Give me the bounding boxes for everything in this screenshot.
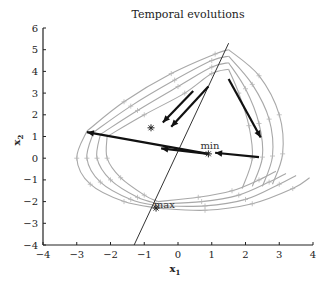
time-tick-cross (267, 180, 272, 185)
x-tick-label: −2 (103, 249, 118, 260)
time-tick-cross (290, 186, 295, 191)
trajectory-curve (158, 176, 296, 207)
y-tick-label: 4 (32, 66, 38, 77)
time-tick-cross (128, 197, 133, 202)
y-tick-label: 6 (32, 23, 38, 34)
time-tick-cross (95, 156, 100, 161)
trajectory-curve (107, 69, 229, 136)
time-tick-cross (243, 197, 248, 202)
time-tick-cross (172, 78, 177, 83)
trajectory-curve (158, 178, 310, 211)
x-axis-label: x1 (170, 263, 181, 277)
chart-title: Temporal evolutions (131, 8, 245, 21)
y-tick-label: −1 (23, 174, 38, 185)
time-tick-cross (135, 195, 140, 200)
time-tick-cross (203, 203, 208, 208)
y-axis-label: x2 (11, 134, 25, 145)
trajectory-curve (158, 171, 276, 201)
trajectory-curve (229, 50, 284, 185)
x-tick-label: 4 (310, 249, 316, 260)
time-tick-cross (142, 112, 147, 117)
y-tick-label: 0 (32, 153, 38, 164)
arrow-shaft (87, 132, 209, 154)
time-tick-cross (267, 117, 272, 122)
time-tick-cross (182, 91, 187, 96)
time-tick-cross (280, 151, 285, 156)
time-tick-cross (209, 65, 214, 70)
time-tick-cross (250, 201, 255, 206)
time-tick-cross (203, 208, 208, 213)
trajectory-curve (97, 134, 158, 204)
time-tick-cross (236, 193, 241, 198)
x-tick-label: 1 (209, 249, 215, 260)
temporal-evolutions-chart: −4−3−2−101234−4−3−2−10123456 Temporal ev… (0, 0, 333, 289)
x-tick-label: 2 (242, 249, 248, 260)
trajectory-curve (87, 50, 229, 131)
x-tick-label: −3 (69, 249, 84, 260)
max-annotation: max (154, 199, 175, 210)
time-tick-cross (270, 154, 275, 159)
y-tick-label: 1 (32, 131, 38, 142)
time-tick-cross (246, 123, 251, 128)
time-tick-cross (209, 58, 214, 63)
time-tick-cross (213, 52, 218, 57)
x-tick-label: 0 (175, 249, 181, 260)
time-tick-cross (257, 177, 262, 182)
y-tick-label: −4 (23, 240, 38, 251)
y-tick-label: 5 (32, 44, 38, 55)
time-tick-cross (169, 71, 174, 76)
time-tick-cross (277, 112, 282, 117)
y-tick-label: 2 (32, 109, 38, 120)
x-tick-label: 3 (276, 249, 282, 260)
y-tick-label: −3 (23, 218, 38, 229)
axes: −4−3−2−101234−4−3−2−10123456 (23, 23, 316, 261)
trajectory-curve (94, 56, 229, 132)
min-annotation: min (200, 140, 220, 151)
time-tick-cross (230, 188, 235, 193)
time-tick-cross (122, 199, 127, 204)
y-tick-label: 3 (32, 88, 38, 99)
time-tick-cross (199, 199, 204, 204)
time-tick-cross (176, 84, 181, 89)
time-tick-cross (74, 156, 79, 161)
y-tick-label: −2 (23, 196, 38, 207)
time-tick-cross (84, 156, 89, 161)
time-tick-cross (196, 195, 201, 200)
x-tick-label: −4 (36, 249, 51, 260)
time-tick-cross (277, 182, 282, 187)
trajectory-curves (74, 50, 309, 213)
time-tick-cross (257, 121, 262, 126)
time-tick-cross (105, 156, 110, 161)
star-marker (205, 150, 212, 157)
star-marker (148, 124, 155, 131)
time-tick-cross (260, 155, 265, 160)
x-tick-label: −1 (137, 249, 152, 260)
time-tick-cross (243, 86, 248, 91)
